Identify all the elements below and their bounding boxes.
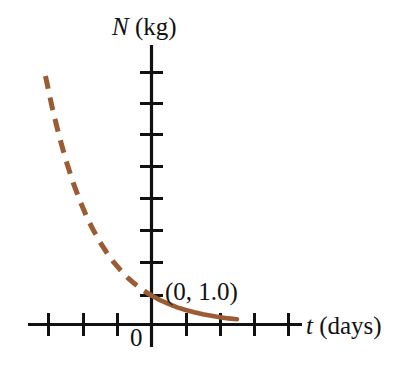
y-axis-symbol: N: [112, 13, 129, 40]
x-axis-symbol: t: [306, 312, 313, 339]
decay-curve-dashed-segment: [45, 76, 151, 296]
decay-graph-figure: N (kg) t (days) 0 (0, 1.0): [0, 0, 402, 380]
y-axis-unit: (kg): [129, 13, 177, 40]
y-axis-label: N (kg): [112, 14, 177, 39]
origin-label: 0: [130, 325, 143, 350]
x-axis-label: t (days): [306, 313, 382, 338]
x-axis-unit: (days): [313, 312, 382, 339]
intercept-annotation: (0, 1.0): [165, 279, 238, 304]
